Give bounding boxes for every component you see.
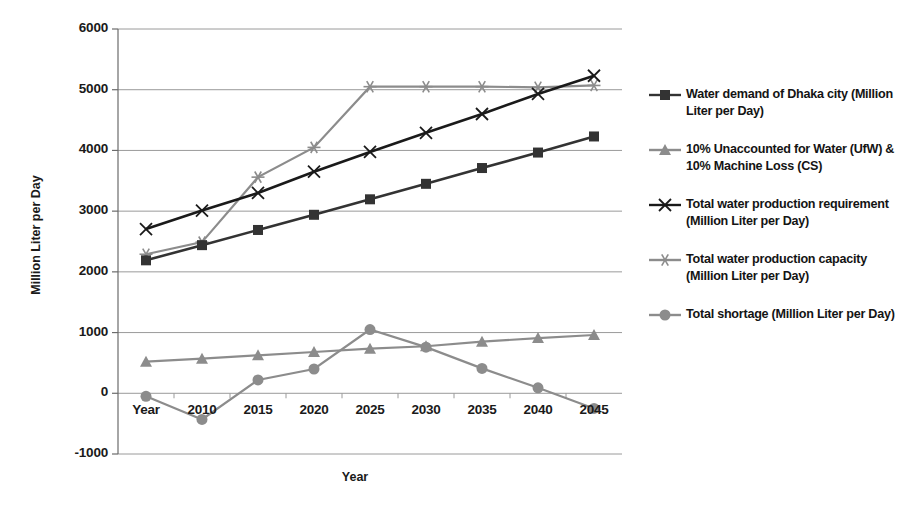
marker-square [533, 148, 543, 158]
marker-square [421, 179, 431, 189]
marker-circle [365, 324, 376, 335]
series-line [146, 85, 594, 254]
legend-swatch [648, 308, 682, 322]
legend-marker-asterisk-icon [648, 253, 682, 267]
legend-marker-square-icon [648, 88, 682, 102]
line-chart: -10000100020003000400050006000 Year20102… [0, 0, 640, 510]
y-axis-tick-label: 6000 [20, 20, 108, 35]
legend-swatch [648, 253, 682, 267]
legend-entry[interactable]: Total water production requirement (Mill… [648, 196, 910, 229]
marker-square [365, 194, 375, 204]
marker-circle [533, 382, 544, 393]
marker-circle [141, 391, 152, 402]
legend-marker-triangle-icon [648, 143, 682, 157]
marker-square [660, 90, 670, 100]
plot-canvas [0, 0, 640, 510]
series-2 [140, 70, 600, 235]
legend-label: Total water production capacity (Million… [686, 251, 910, 284]
marker-circle [477, 363, 488, 374]
y-axis-title: Million Liter per Day [29, 155, 43, 315]
legend-swatch [648, 88, 682, 102]
marker-square [253, 225, 263, 235]
marker-square [197, 240, 207, 250]
y-axis-tick-label: 0 [20, 384, 108, 399]
marker-circle [253, 374, 264, 385]
x-axis-tick-label: 2045 [560, 402, 628, 417]
series-3 [140, 80, 601, 260]
legend-label: 10% Unaccounted for Water (UfW) & 10% Ma… [686, 141, 910, 174]
chart-page: -10000100020003000400050006000 Year20102… [0, 0, 912, 510]
x-axis-title: Year [255, 470, 455, 484]
chart-legend: Water demand of Dhaka city (Million Lite… [648, 86, 910, 348]
legend-marker-circle-icon [648, 308, 682, 322]
y-axis-tick-label: -1000 [20, 445, 108, 460]
legend-label: Total water production requirement (Mill… [686, 196, 910, 229]
legend-swatch [648, 198, 682, 212]
marker-square [309, 210, 319, 220]
marker-circle [660, 310, 671, 321]
marker-square [477, 163, 487, 173]
legend-entry[interactable]: Total shortage (Million Liter per Day) [648, 306, 910, 326]
marker-circle [309, 364, 320, 375]
y-axis-tick-label: 5000 [20, 81, 108, 96]
legend-entry[interactable]: Total water production capacity (Million… [648, 251, 910, 284]
legend-entry[interactable]: Water demand of Dhaka city (Million Lite… [648, 86, 910, 119]
legend-entry[interactable]: 10% Unaccounted for Water (UfW) & 10% Ma… [648, 141, 910, 174]
legend-swatch [648, 143, 682, 157]
y-axis-tick-label: 1000 [20, 324, 108, 339]
marker-square [141, 255, 151, 265]
legend-label: Total shortage (Million Liter per Day) [686, 306, 910, 323]
marker-square [589, 131, 599, 141]
marker-circle [421, 342, 432, 353]
legend-marker-x-icon [648, 198, 682, 212]
legend-label: Water demand of Dhaka city (Million Lite… [686, 86, 910, 119]
